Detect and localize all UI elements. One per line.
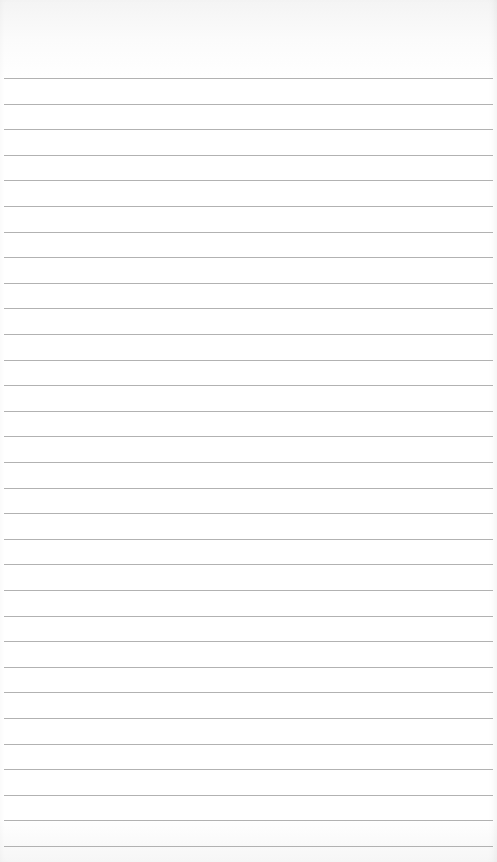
ruled-line bbox=[4, 769, 493, 770]
ruled-line bbox=[4, 488, 493, 489]
ruled-line bbox=[4, 411, 493, 412]
ruled-line bbox=[4, 104, 493, 105]
ruled-line bbox=[4, 462, 493, 463]
ruled-line bbox=[4, 744, 493, 745]
ruled-line bbox=[4, 308, 493, 309]
ruled-line bbox=[4, 232, 493, 233]
ruled-line bbox=[4, 616, 493, 617]
ruled-line bbox=[4, 334, 493, 335]
ruled-line bbox=[4, 436, 493, 437]
ruled-line bbox=[4, 360, 493, 361]
ruled-line bbox=[4, 180, 493, 181]
ruled-line bbox=[4, 795, 493, 796]
ruled-line bbox=[4, 718, 493, 719]
ruled-line bbox=[4, 129, 493, 130]
ruled-line bbox=[4, 513, 493, 514]
ruled-line bbox=[4, 667, 493, 668]
ruled-line bbox=[4, 564, 493, 565]
ruled-line bbox=[4, 692, 493, 693]
ruled-paper-sheet bbox=[0, 0, 497, 862]
ruled-line bbox=[4, 820, 493, 821]
ruled-line bbox=[4, 846, 493, 847]
ruled-line bbox=[4, 78, 493, 79]
ruled-line bbox=[4, 385, 493, 386]
ruled-line bbox=[4, 206, 493, 207]
ruled-line bbox=[4, 257, 493, 258]
ruled-line bbox=[4, 641, 493, 642]
ruled-line bbox=[4, 590, 493, 591]
ruled-line bbox=[4, 539, 493, 540]
ruled-line bbox=[4, 283, 493, 284]
ruled-line bbox=[4, 155, 493, 156]
